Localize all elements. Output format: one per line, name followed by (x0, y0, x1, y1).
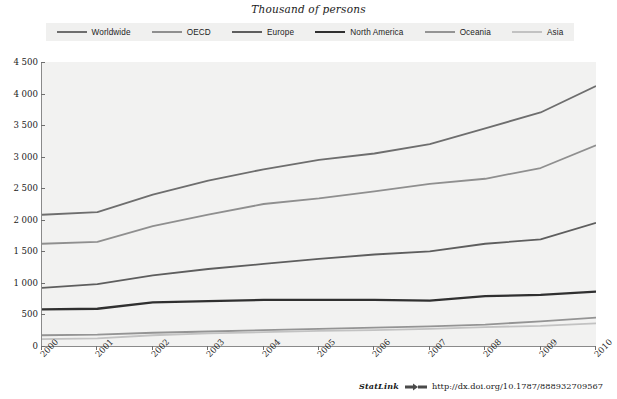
legend-swatch-europe (232, 31, 262, 33)
legend-swatch-oceania (425, 31, 455, 33)
series-line-north-america (42, 292, 596, 310)
y-tick-label: 3 000 (2, 152, 38, 162)
legend-item-europe: Europe (232, 28, 294, 37)
legend-label: Worldwide (92, 28, 131, 37)
legend-swatch-worldwide (57, 31, 87, 33)
legend-item-north-america: North America (315, 28, 403, 37)
plot-lines (42, 62, 596, 346)
plot-area (41, 62, 596, 347)
statlink-label: StatLink (359, 381, 399, 391)
legend-label: OECD (187, 28, 211, 37)
chart-title: Thousand of persons (0, 3, 617, 15)
legend-item-oceania: Oceania (425, 28, 491, 37)
y-tick-label: 500 (2, 309, 38, 319)
legend-label: Oceania (460, 28, 491, 37)
y-tick-mark (41, 251, 45, 252)
y-tick-mark (41, 157, 45, 158)
y-tick-label: 1 500 (2, 246, 38, 256)
legend-label: Europe (267, 28, 294, 37)
y-tick-mark (41, 125, 45, 126)
y-tick-mark (41, 62, 45, 63)
statlink: StatLink http://dx.doi.org/10.1787/88893… (359, 378, 603, 394)
series-line-asia (42, 323, 596, 339)
y-axis: 05001 0001 5002 0002 5003 0003 5004 0004… (0, 0, 38, 399)
legend-item-worldwide: Worldwide (57, 28, 131, 37)
legend-label: North America (350, 28, 403, 37)
y-tick-mark (41, 314, 45, 315)
y-tick-mark (41, 283, 45, 284)
statlink-icon (405, 378, 427, 394)
y-tick-label: 2 500 (2, 183, 38, 193)
y-tick-mark (41, 346, 45, 347)
legend-item-oecd: OECD (152, 28, 211, 37)
statlink-url: http://dx.doi.org/10.1787/888932709567 (432, 381, 603, 391)
legend-swatch-north-america (315, 31, 345, 34)
chart-legend: WorldwideOECDEuropeNorth AmericaOceaniaA… (46, 23, 574, 41)
series-line-europe (42, 223, 596, 288)
y-tick-mark (41, 94, 45, 95)
legend-label: Asia (547, 28, 563, 37)
y-tick-label: 0 (2, 341, 38, 351)
legend-swatch-oecd (152, 31, 182, 33)
y-tick-label: 4 500 (2, 57, 38, 67)
series-line-worldwide (42, 86, 596, 215)
y-tick-label: 4 000 (2, 89, 38, 99)
y-tick-label: 1 000 (2, 278, 38, 288)
y-tick-label: 2 000 (2, 215, 38, 225)
legend-swatch-asia (512, 31, 542, 33)
y-tick-label: 3 500 (2, 120, 38, 130)
legend-item-asia: Asia (512, 28, 563, 37)
y-tick-mark (41, 220, 45, 221)
chart-figure: Thousand of persons WorldwideOECDEuropeN… (0, 0, 617, 399)
y-tick-mark (41, 188, 45, 189)
